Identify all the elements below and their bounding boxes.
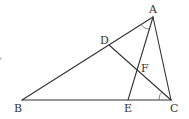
triangle-diagram: A B C D E F	[0, 0, 189, 119]
label-b: B	[14, 102, 22, 115]
segment-ca	[153, 17, 171, 100]
label-c: C	[170, 102, 178, 115]
label-e: E	[124, 102, 132, 115]
segment-ae	[128, 17, 153, 100]
label-a: A	[148, 3, 158, 16]
label-f: F	[141, 62, 149, 75]
segment-cd	[109, 45, 171, 100]
segment-ab	[22, 17, 153, 100]
angle-mark-c	[159, 92, 162, 100]
label-d: D	[100, 34, 109, 47]
stray-mark	[0, 57, 2, 60]
angle-mark-a	[141, 25, 149, 29]
